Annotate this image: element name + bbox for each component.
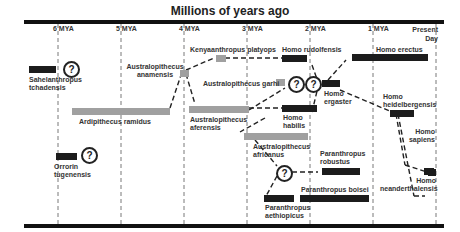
tick-present: Present Day [408, 25, 438, 43]
uncertain-icon: ? [276, 165, 293, 182]
label-africanus: Australopithecus africanus [253, 143, 313, 159]
label-anamensis: Australopithecus anamensis [122, 63, 188, 79]
tick-4mya: 4 MYA [179, 25, 200, 32]
bar-erectus [352, 54, 428, 61]
bar-africanus [244, 133, 308, 140]
label-sahelanthropus: Sahelanthropus tchadensis [29, 76, 79, 92]
label-heidelbergensis: Homo heidelbergensis [383, 93, 439, 109]
label-robustus: Paranthropus robustus [320, 150, 364, 166]
bar-ardipithecus [72, 108, 170, 115]
bar-habilis [282, 105, 317, 112]
label-garhi: Australopithecus garhi [203, 80, 279, 88]
bar-boisei [300, 195, 369, 202]
label-sapiens: Homo sapiens [405, 128, 435, 144]
label-erectus: Homo erectus [376, 46, 423, 54]
uncertain-icon: ? [305, 76, 322, 93]
bar-heidelbergensis [390, 110, 414, 117]
top-axis [24, 20, 444, 24]
label-kenyanthropus: Kenyaanthropus platyops [190, 46, 276, 54]
bar-kenyanthropus [216, 55, 226, 62]
label-boisei: Paranthropus boisei [301, 186, 369, 194]
bottom-axis [24, 224, 444, 228]
label-aethiopicus: Paranthropus aethiopicus [265, 204, 309, 220]
label-neanderthalensis: Homo neanderthalensis [380, 177, 436, 193]
label-afarensis: Australopithecus aferensis [190, 116, 250, 132]
label-orrorin: Orrorin tugenensis [54, 163, 94, 179]
bar-robustus [322, 168, 360, 175]
uncertain-icon: ? [81, 147, 98, 164]
bar-rudolfensis [282, 55, 307, 62]
tick-1mya: 1 MYA [368, 25, 389, 32]
bar-sahelanthropus [29, 66, 56, 73]
tick-5mya: 5 MYA [116, 25, 137, 32]
label-ergaster: Homo ergaster [324, 90, 354, 106]
label-habilis: Homo habilis [283, 114, 313, 130]
bar-orrorin [56, 153, 77, 160]
label-ardipithecus: Ardipithecus ramidus [79, 118, 151, 126]
bar-afarensis [189, 106, 249, 113]
bar-ergaster [322, 80, 340, 87]
uncertain-icon: ? [288, 76, 305, 93]
tick-3mya: 3 MYA [242, 25, 263, 32]
tick-6mya: 6 MYA [53, 25, 74, 32]
tick-2mya: 2 MYA [305, 25, 326, 32]
bar-neanderthalensis [424, 168, 434, 175]
bar-aethiopicus [264, 195, 294, 202]
label-rudolfensis: Homo rudolfensis [282, 46, 342, 54]
